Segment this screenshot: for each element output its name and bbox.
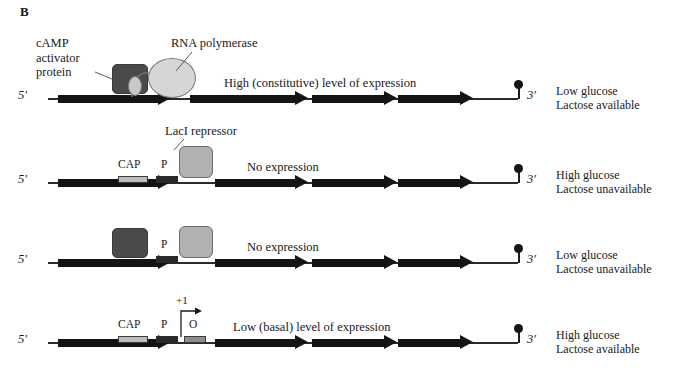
- transcription-start-label: +1: [176, 294, 188, 306]
- rnap-callout-leader: [172, 52, 200, 74]
- promoter-site: [156, 336, 178, 343]
- cap-binding-site: [118, 336, 148, 343]
- operon-row-no-expression-repressor: 5′ 3′ CAP P No expression High glucose L…: [0, 92, 676, 184]
- rna-polymerase-callout: RNA polymerase: [171, 36, 257, 51]
- operon-row-no-expression-cap-repressor: 5′ 3′ P No expression Low glucose Lactos…: [0, 172, 676, 264]
- promoter-site-label: P: [161, 158, 167, 170]
- promoter-site-label: P: [161, 238, 167, 250]
- transcription-start-arrow-icon: [180, 306, 204, 338]
- expression-level-label: High (constitutive) level of expression: [224, 76, 416, 91]
- operon-row-high-constitutive: 5′ 3′ High (constitutive) level of expre…: [0, 8, 676, 100]
- three-prime-label: 3′: [527, 332, 536, 347]
- figure-panel-b: B 5′ 3′ High (constitutive) level of exp…: [0, 0, 676, 372]
- cap-site-label: CAP: [118, 158, 140, 170]
- cap-callout-leader: [95, 70, 125, 84]
- cap-site-label: CAP: [118, 318, 140, 330]
- operon-row-low-basal: 5′ 3′ CAP P O +1 Low (basal) level of ex…: [0, 252, 676, 344]
- cap-protein-callout: cAMP activator protein: [36, 36, 80, 80]
- condition-label: High glucose Lactose available: [556, 328, 640, 356]
- laci-callout-leader: [170, 139, 192, 153]
- promoter-site-label: P: [161, 318, 167, 330]
- laci-repressor-callout: LacI repressor: [165, 124, 237, 139]
- expression-level-label: Low (basal) level of expression: [233, 320, 391, 335]
- five-prime-label: 5′: [18, 332, 27, 347]
